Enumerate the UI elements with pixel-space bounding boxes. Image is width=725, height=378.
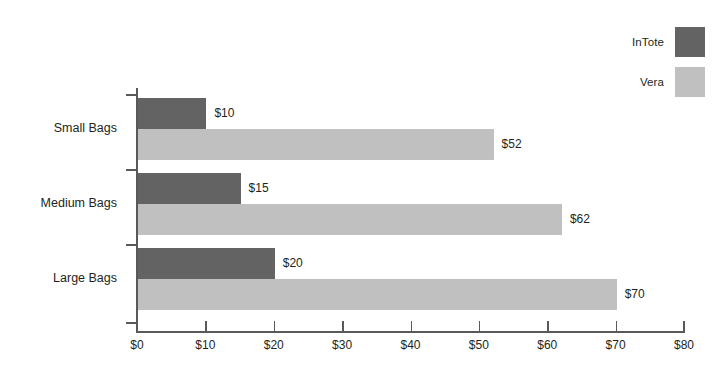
- category-label-medium-bags: Medium Bags: [0, 196, 117, 210]
- bar-intote-large-bags[interactable]: [138, 248, 275, 279]
- bar-vera-small-bags[interactable]: [138, 129, 494, 160]
- bar-intote-small-bags[interactable]: [138, 98, 206, 129]
- x-axis-tick: [274, 321, 275, 332]
- y-axis-tick: [126, 244, 136, 246]
- bar-value-label: $70: [625, 279, 645, 310]
- bar-value-label: $20: [283, 248, 303, 279]
- bar-value-label: $62: [570, 204, 590, 235]
- x-axis-tick-label: $0: [130, 338, 143, 352]
- legend-item-intote[interactable]: InTote: [595, 26, 705, 58]
- legend-swatch-intote: [675, 27, 705, 57]
- bar-chart: InTote Vera Small BagsMedium BagsLarge B…: [0, 0, 725, 378]
- x-axis-tick-label: $10: [195, 338, 215, 352]
- x-axis-tick-label: $40: [400, 338, 420, 352]
- legend-label-vera: Vera: [640, 76, 664, 88]
- bar-value-label: $15: [249, 173, 269, 204]
- x-axis-tick: [616, 321, 617, 332]
- x-axis-tick: [205, 321, 206, 332]
- category-label-large-bags: Large Bags: [0, 271, 117, 285]
- y-axis-tick: [126, 94, 136, 96]
- x-axis-tick-label: $50: [469, 338, 489, 352]
- x-axis-tick: [479, 321, 480, 332]
- x-axis-tick-label: $70: [606, 338, 626, 352]
- category-axis-labels: Small BagsMedium BagsLarge Bags: [0, 88, 125, 333]
- bar-vera-large-bags[interactable]: [138, 279, 617, 310]
- x-axis-tick-label: $30: [332, 338, 352, 352]
- x-axis-tick: [137, 321, 138, 332]
- bar-intote-medium-bags[interactable]: [138, 173, 241, 204]
- bar-vera-medium-bags[interactable]: [138, 204, 562, 235]
- x-axis-tick-label: $60: [537, 338, 557, 352]
- x-axis-tick: [342, 321, 343, 332]
- y-axis-tick: [126, 322, 136, 324]
- x-axis-tick-label: $80: [674, 338, 694, 352]
- plot-area: $0$10$20$30$40$50$60$70$80$10$52$15$62$2…: [136, 88, 683, 333]
- bar-value-label: $10: [214, 98, 234, 129]
- category-label-small-bags: Small Bags: [0, 121, 117, 135]
- y-axis-tick: [126, 169, 136, 171]
- x-axis-tick: [547, 321, 548, 332]
- bar-value-label: $52: [502, 129, 522, 160]
- x-axis-tick: [684, 321, 685, 332]
- x-axis-tick: [411, 321, 412, 332]
- legend-label-intote: InTote: [632, 36, 664, 48]
- chart-legend: InTote Vera: [595, 18, 705, 96]
- x-axis-tick-label: $20: [264, 338, 284, 352]
